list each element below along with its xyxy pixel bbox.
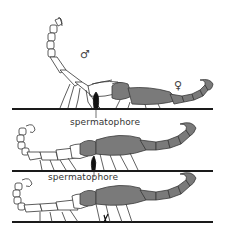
male-symbol: ♂ (80, 49, 90, 60)
spermatophore-label-1: spermatophore (70, 117, 140, 127)
panel-2 (12, 123, 213, 177)
panel-1 (12, 18, 213, 118)
female-scorpion (112, 80, 213, 109)
spermatophore-icon (91, 156, 95, 170)
scorpion-mating-figure: ♂ ♀ spermatophore spermatophore (0, 0, 227, 235)
female-symbol: ♀ (174, 80, 182, 91)
spermatophore-icon (93, 92, 98, 108)
male-scorpion (17, 125, 88, 170)
female-scorpion (80, 123, 196, 170)
spermatophore-label-2: spermatophore (48, 172, 118, 182)
male-scorpion (13, 179, 88, 222)
